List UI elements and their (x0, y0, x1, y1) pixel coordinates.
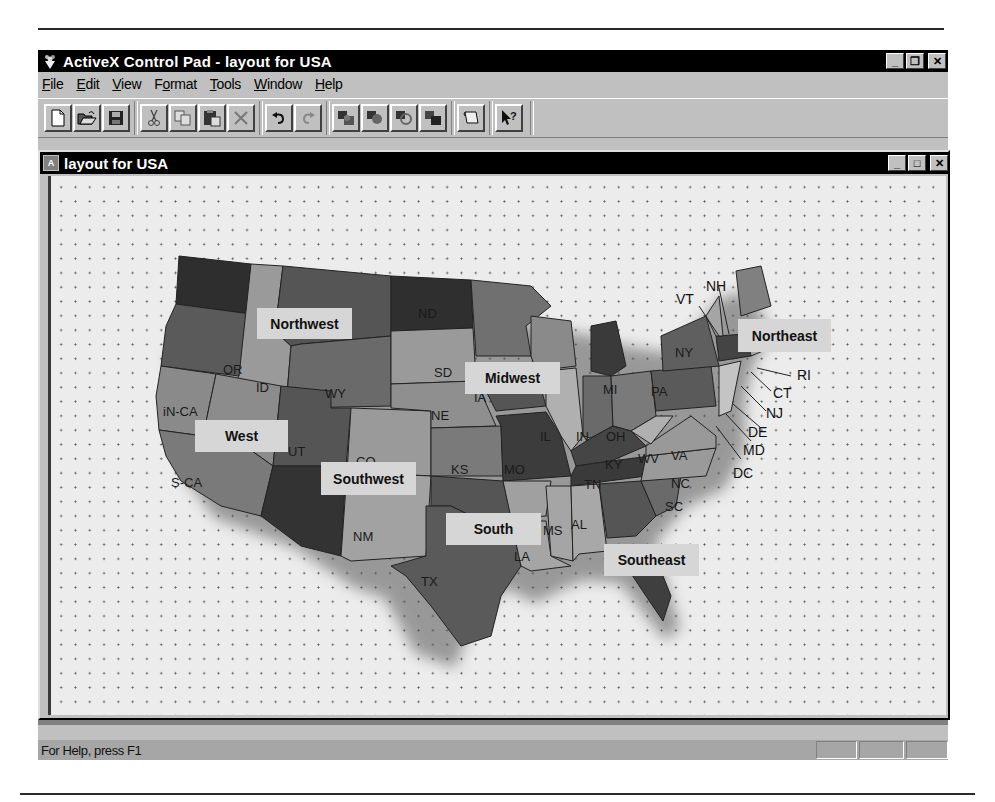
bring-front-icon (337, 110, 355, 126)
delete-button[interactable] (227, 104, 255, 132)
minimize-icon: _ (892, 55, 898, 67)
doc-close-button[interactable]: ✕ (930, 155, 948, 171)
status-panel-2 (859, 741, 904, 759)
restore-button[interactable]: ❐ (906, 53, 924, 69)
callout-ri: RI (797, 367, 811, 383)
menu-help[interactable]: Help (315, 76, 343, 92)
scissors-icon (147, 109, 161, 127)
page-rule-top (38, 28, 944, 30)
move-forward-button[interactable] (361, 104, 389, 132)
menu-window[interactable]: Window (254, 76, 302, 92)
state-label-al: AL (571, 517, 587, 532)
paste-button[interactable] (198, 104, 226, 132)
region-label-northeast[interactable]: Northeast (738, 319, 831, 352)
page-rule-bottom (20, 793, 975, 795)
callout-md: MD (743, 442, 765, 458)
app-window: ActiveX Control Pad - layout for USA _ ❐… (38, 50, 948, 760)
delete-x-icon (233, 110, 249, 126)
menu-view-rest: iew (121, 76, 141, 92)
minimize-icon: _ (894, 157, 900, 169)
state-me[interactable] (736, 266, 771, 316)
svg-text:?: ? (510, 110, 517, 122)
context-help-button[interactable]: ? (495, 104, 523, 132)
save-button[interactable] (102, 104, 130, 132)
doc-maximize-button[interactable]: □ (908, 155, 926, 171)
redo-button[interactable] (294, 104, 322, 132)
menu-window-accel: W (254, 76, 267, 92)
state-label-il: IL (540, 429, 551, 444)
layout-document-window: A layout for USA _ □ ✕ (38, 150, 950, 720)
region-label-southwest[interactable]: Southwest (321, 462, 416, 495)
mdi-client-area: A layout for USA _ □ ✕ (38, 150, 948, 725)
close-button[interactable]: ✕ (928, 53, 946, 69)
new-button[interactable] (44, 104, 72, 132)
copy-button[interactable] (169, 104, 197, 132)
open-folder-icon (77, 110, 97, 126)
region-label-south[interactable]: South (446, 513, 541, 545)
script-wizard-button[interactable] (457, 104, 485, 132)
status-text: For Help, press F1 (41, 743, 141, 758)
toolbar-separator (134, 101, 138, 135)
callout-nj: NJ (766, 405, 783, 421)
state-label-nd: ND (418, 306, 437, 321)
toolbar-separator (326, 101, 330, 135)
state-label-nc: NC (671, 476, 690, 491)
save-disk-icon (108, 110, 124, 126)
send-to-back-button[interactable] (419, 104, 447, 132)
scroll-icon (462, 110, 480, 126)
activex-app-icon (41, 52, 59, 70)
usa-map-image[interactable]: OR ID WY iN-CA S-CA UT CO NM ND SD NE KS (51, 176, 951, 725)
toolbar-separator (530, 101, 534, 135)
move-backward-button[interactable] (390, 104, 418, 132)
state-label-wv: WV (638, 451, 659, 466)
layout-canvas[interactable]: OR ID WY iN-CA S-CA UT CO NM ND SD NE KS (48, 176, 946, 715)
undo-button[interactable] (265, 104, 293, 132)
move-backward-icon (395, 110, 413, 126)
menu-tools-rest: ools (217, 76, 241, 92)
menu-edit[interactable]: Edit (76, 76, 99, 92)
menu-file[interactable]: File (42, 76, 63, 92)
state-label-oh: OH (606, 429, 626, 444)
maximize-icon: □ (914, 157, 921, 169)
callout-dc: DC (733, 465, 753, 481)
state-label-n-ca: iN-CA (163, 404, 198, 419)
state-nd[interactable] (391, 276, 473, 331)
state-label-pa: PA (651, 384, 668, 399)
menu-view[interactable]: View (112, 76, 141, 92)
state-label-mi: MI (603, 382, 617, 397)
menu-format[interactable]: Format (154, 76, 197, 92)
state-label-sc: SC (665, 499, 683, 514)
state-label-tx: TX (421, 574, 438, 589)
state-label-ut: UT (288, 444, 305, 459)
close-icon: ✕ (935, 157, 944, 170)
status-panel-3 (906, 741, 948, 759)
callout-de: DE (748, 424, 767, 440)
state-label-mo: MO (504, 462, 525, 477)
state-mi[interactable] (591, 321, 626, 376)
menu-tools[interactable]: Tools (210, 76, 241, 92)
cut-button[interactable] (140, 104, 168, 132)
region-label-northwest[interactable]: Northwest (257, 308, 352, 339)
new-document-icon (50, 109, 66, 127)
region-label-southeast[interactable]: Southeast (604, 544, 699, 576)
menu-format-accel: o (162, 76, 170, 92)
callout-vt: VT (676, 291, 694, 307)
state-label-la: LA (514, 549, 530, 564)
bring-to-front-button[interactable] (332, 104, 360, 132)
region-label-west[interactable]: West (195, 420, 288, 452)
region-label-midwest[interactable]: Midwest (465, 362, 560, 394)
title-bar: ActiveX Control Pad - layout for USA _ ❐… (38, 50, 948, 72)
minimize-button[interactable]: _ (886, 53, 904, 69)
state-label-ky: KY (605, 457, 623, 472)
open-button[interactable] (73, 104, 101, 132)
document-title-bar: A layout for USA _ □ ✕ (40, 152, 948, 174)
doc-minimize-button[interactable]: _ (888, 155, 906, 171)
status-panel-1 (816, 741, 857, 759)
state-label-wy: WY (325, 386, 346, 401)
state-label-ks: KS (451, 462, 469, 477)
state-label-nm: NM (353, 529, 373, 544)
status-bar: For Help, press F1 (38, 740, 948, 760)
redo-icon (300, 111, 316, 125)
state-label-ne: NE (431, 408, 449, 423)
copy-icon (174, 110, 192, 126)
